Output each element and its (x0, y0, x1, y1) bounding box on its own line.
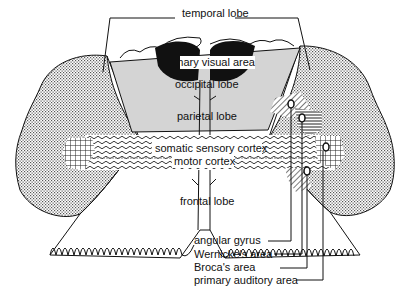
frontal-lobe-label: frontal lobe (180, 195, 234, 207)
primary-auditory-area-marker (323, 143, 329, 151)
frontal-gyri-left (50, 245, 194, 256)
primary-visual-area-label: primary visual area (162, 56, 256, 68)
temporal-lobe-label: temporal lobe (182, 7, 249, 19)
somatic-sensory-cortex-label: somatic sensory cortex (155, 142, 268, 154)
brocas-area-marker (304, 167, 310, 175)
angular-gyrus-marker (288, 100, 294, 108)
wernickes-area-marker (299, 114, 305, 122)
wernickes-area-label: Wernicke's area (194, 248, 273, 260)
diagram-canvas: temporal lobe primary visual area occipi… (0, 0, 407, 292)
motor-cortex-label: motor cortex (174, 155, 236, 167)
brain-diagram: temporal lobe primary visual area occipi… (0, 0, 407, 292)
primary-auditory-area-label: primary auditory area (194, 274, 299, 286)
parietal-lobe-label: parietal lobe (177, 110, 237, 122)
brocas-area-label: Broca's area (194, 261, 256, 273)
occipital-lobe-label: occipital lobe (175, 78, 239, 90)
angular-gyrus-label: angular gyrus (194, 234, 261, 246)
